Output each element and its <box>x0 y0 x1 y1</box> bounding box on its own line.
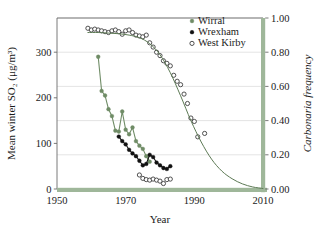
x-axis-tick-label: 1950 <box>47 195 68 206</box>
data-point <box>192 119 196 123</box>
data-point <box>179 83 183 87</box>
data-point <box>155 161 159 165</box>
right-axis-band <box>261 18 265 192</box>
data-point <box>144 154 148 158</box>
data-point <box>168 177 172 181</box>
legend-marker-filled-circle-icon <box>190 19 194 23</box>
y-axis-tick-label-right: 0.40 <box>271 115 289 126</box>
data-point <box>162 166 166 170</box>
data-point <box>185 101 189 105</box>
data-point <box>151 155 155 159</box>
x-axis-tick-label: 1970 <box>115 195 136 206</box>
data-point <box>120 110 124 114</box>
data-point <box>124 142 128 146</box>
y-axis-tick-label-right: 0.60 <box>271 81 289 92</box>
data-point <box>158 163 162 167</box>
data-point <box>137 173 141 177</box>
data-point <box>148 160 152 164</box>
data-point <box>131 152 135 156</box>
data-point <box>203 131 207 135</box>
data-point <box>117 135 121 139</box>
data-point <box>134 139 138 143</box>
data-point <box>138 144 142 148</box>
data-point <box>168 164 172 168</box>
data-point <box>182 92 186 96</box>
x-axis-title: Year <box>150 213 171 225</box>
data-point <box>100 89 104 93</box>
chart-figure: 01002003000.000.200.400.600.801.00195019… <box>0 0 327 232</box>
legend-marker-filled-circle-icon <box>190 30 194 34</box>
legend-label: Wirral <box>198 15 225 26</box>
data-point <box>138 159 142 163</box>
legend-item-west-kirby: West Kirby <box>190 37 247 48</box>
bottom-axis-band <box>57 188 267 192</box>
data-point <box>127 132 131 136</box>
y-axis-tick-label-left: 100 <box>36 138 52 149</box>
x-axis-tick-label: 1990 <box>184 195 205 206</box>
data-point <box>127 148 131 152</box>
data-point <box>141 163 145 167</box>
data-point <box>144 162 148 166</box>
y-axis-tick-label-right: 0.00 <box>271 184 289 195</box>
data-point <box>96 55 100 59</box>
y-axis-tick-label-left: 200 <box>36 92 52 103</box>
data-point <box>103 94 107 98</box>
y-axis-tick-label-right: 0.80 <box>271 47 289 58</box>
data-point <box>144 33 148 37</box>
y-axis-tick-label-left: 0 <box>46 184 51 195</box>
y-axis-title-left: Mean winter SO₂ (μg/m³) <box>5 47 18 160</box>
y-axis-title-right: Carbonaria frequency <box>301 55 313 153</box>
data-point <box>168 64 172 68</box>
data-point <box>131 126 135 130</box>
data-point <box>124 128 128 132</box>
data-point <box>110 114 114 118</box>
x-axis-tick-label: 2010 <box>253 195 274 206</box>
data-point <box>148 153 152 157</box>
legend-label: West Kirby <box>198 37 247 48</box>
data-point <box>134 154 138 158</box>
legend-label: Wrexham <box>198 26 239 37</box>
data-point <box>120 139 124 143</box>
data-point <box>175 79 179 83</box>
data-point <box>117 130 121 134</box>
y-axis-tick-label-right: 0.20 <box>271 149 289 160</box>
data-point <box>161 181 165 185</box>
legend-item-wrexham: Wrexham <box>190 26 239 37</box>
data-point <box>165 167 169 171</box>
so2-carbonaria-chart: 01002003000.000.200.400.600.801.00195019… <box>0 0 327 232</box>
y-axis-tick-label-right: 1.00 <box>271 13 289 24</box>
data-point <box>141 147 145 151</box>
legend-marker-open-circle-icon <box>190 41 194 45</box>
y-axis-tick-label-left: 300 <box>36 47 52 58</box>
data-point <box>107 107 111 111</box>
data-point <box>113 129 117 133</box>
